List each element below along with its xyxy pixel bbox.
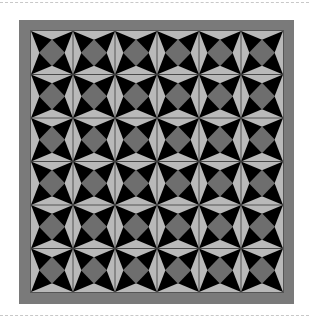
bottom-dashed-divider xyxy=(0,315,309,316)
top-dashed-divider xyxy=(0,2,309,3)
quilt-artwork xyxy=(19,20,294,304)
quilt-pattern-graphic xyxy=(19,20,294,304)
